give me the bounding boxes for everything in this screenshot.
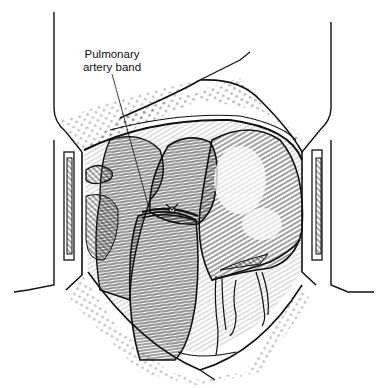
medical-illustration xyxy=(0,0,386,388)
retractor-left xyxy=(64,152,82,290)
label-line-1: Pulmonary xyxy=(76,48,148,61)
retractor-right xyxy=(302,150,322,285)
pulmonary-artery-band-label: Pulmonary artery band xyxy=(76,48,148,74)
label-line-2: artery band xyxy=(76,61,148,74)
